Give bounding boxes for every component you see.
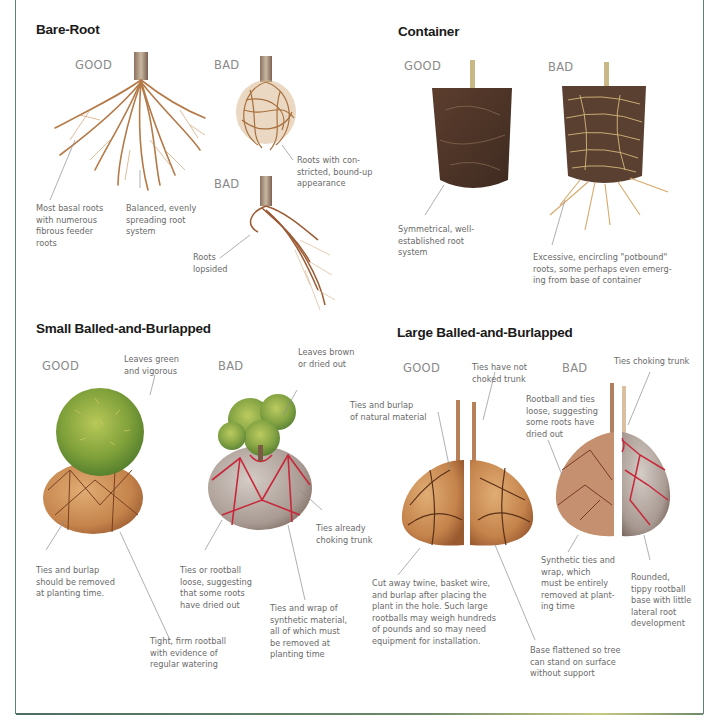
- note-ties-loose: Ties or rootball loose, suggesting that …: [180, 565, 252, 611]
- section-title-bare-root: Bare-Root: [36, 22, 99, 37]
- bare-root-good-illustration: [55, 52, 205, 190]
- note-basal-roots: Most basal roots with numerous fibrous f…: [36, 203, 103, 249]
- note-tight-rootball: Tight, firm rootball with evidence of re…: [150, 636, 226, 671]
- section-title-small-bb: Small Balled-and-Burlapped: [36, 321, 211, 336]
- note-lopsided-roots: Roots lopsided: [193, 252, 227, 275]
- label-bad: BAD: [214, 177, 240, 191]
- bare-root-bad-lopsided-illustration: [251, 176, 335, 310]
- section-title-container: Container: [398, 24, 459, 39]
- note-leaves-green: Leaves green and vigorous: [124, 354, 179, 377]
- label-bad: BAD: [548, 60, 574, 74]
- note-cut-away-twine: Cut away twine, basket wire, and burlap …: [372, 578, 496, 647]
- label-good: GOOD: [404, 59, 441, 73]
- note-synthetic-ties-wrap: Synthetic ties and wrap, which must be e…: [541, 555, 615, 613]
- note-rounded-tippy-base: Rounded, tippy rootball base with little…: [631, 572, 691, 630]
- note-rootball-loose: Rootball and ties loose, suggesting some…: [526, 394, 598, 440]
- bare-root-bad-constricted-illustration: [236, 56, 296, 150]
- note-potbound-container: Excessive, encircling "potbound" roots, …: [533, 252, 672, 287]
- note-constricted-roots: Roots with con- stricted, bound-up appea…: [297, 155, 372, 190]
- note-leaves-brown: Leaves brown or dried out: [298, 347, 355, 370]
- note-natural-material: Ties and burlap of natural material: [350, 400, 427, 423]
- label-good: GOOD: [403, 361, 440, 375]
- label-bad: BAD: [214, 58, 240, 72]
- container-bad-illustration: [550, 62, 668, 230]
- small-bb-bad-illustration: [208, 394, 312, 530]
- section-title-large-bb: Large Balled-and-Burlapped: [397, 325, 573, 340]
- note-synthetic-wrap: Ties and wrap of synthetic material, all…: [270, 603, 347, 661]
- label-good: GOOD: [42, 359, 79, 373]
- small-bb-good-illustration: [43, 388, 144, 534]
- note-ties-burlap-remove: Ties and burlap should be removed at pla…: [36, 565, 115, 600]
- label-good: GOOD: [75, 58, 112, 72]
- note-ties-choking-trunk-large: Ties choking trunk: [614, 356, 689, 368]
- label-bad: BAD: [218, 359, 244, 373]
- note-base-flattened: Base flattened so tree can stand on surf…: [530, 645, 621, 680]
- container-good-illustration: [432, 60, 512, 188]
- note-symmetrical-container: Symmetrical, well- established root syst…: [398, 224, 474, 259]
- note-balanced-roots: Balanced, evenly spreading root system: [126, 203, 196, 238]
- label-bad: BAD: [562, 361, 588, 375]
- note-ties-choking-trunk: Ties already choking trunk: [316, 523, 372, 546]
- note-ties-not-choked: Ties have not choked trunk: [472, 362, 527, 385]
